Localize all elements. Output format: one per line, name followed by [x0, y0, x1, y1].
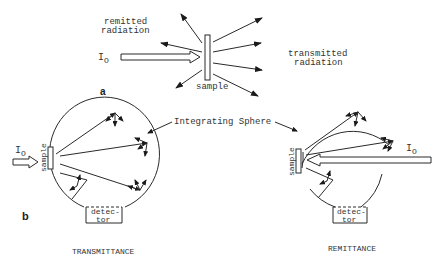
sample-label-left: sample	[39, 143, 48, 172]
integrating-sphere-left	[49, 97, 159, 207]
integrating-sphere-right	[310, 189, 335, 207]
incident-beam-arrow-icon	[121, 51, 200, 63]
scatter-arrow-icon	[106, 113, 115, 121]
detector-label-right-line2: tor	[342, 215, 357, 224]
panel-b-label: b	[22, 210, 29, 222]
sample-label-right: sample	[287, 147, 296, 176]
sample-slab	[205, 35, 210, 80]
scatter-arrow-icon	[115, 113, 123, 121]
sample-label: sample	[196, 82, 228, 92]
transmitted-label-line2: radiation	[294, 58, 343, 68]
integrating-sphere-right	[361, 174, 382, 207]
sample-slab-left	[48, 147, 53, 169]
integrating-sphere-label: Integrating Sphere	[174, 117, 271, 127]
remitted-ray-arrow-icon	[181, 14, 202, 43]
transmitted-ray-arrow-icon	[213, 18, 262, 42]
incident-io-label: IO	[98, 52, 109, 65]
ray-arrow-icon	[56, 113, 115, 154]
scatter-arrow-icon	[320, 181, 327, 184]
transmitted-ray-arrow-icon	[213, 43, 261, 52]
remitted-label-line2: radiation	[101, 26, 150, 36]
scatter-arrow-icon	[145, 143, 147, 156]
ray-line	[318, 180, 333, 198]
scatter-arrow-icon	[346, 112, 358, 116]
panel-a-label: a	[100, 86, 106, 97]
incident-io-label-left: IO	[15, 145, 26, 158]
scatter-arrow-icon	[77, 175, 80, 186]
incident-io-label-right: IO	[406, 143, 417, 156]
transmitted-ray-arrow-icon	[213, 63, 262, 70]
callout-arrow-icon	[275, 122, 297, 131]
diagram-canvas: remitted radiation IO sample transmitted…	[0, 0, 441, 261]
remitted-ray-arrow-icon	[161, 43, 202, 52]
scatter-arrow-icon	[140, 180, 146, 190]
ray-arrow-icon	[60, 143, 147, 156]
transmittance-caption: TRANSMITTANCE	[72, 247, 135, 256]
scatter-arrow-icon	[135, 138, 147, 143]
ray-line	[60, 173, 87, 180]
scatter-arrow-icon	[358, 112, 366, 121]
remittance-caption: REMITTANCE	[328, 244, 376, 253]
panel-a: remitted radiation IO sample transmitted…	[98, 14, 347, 97]
scatter-arrow-icon	[70, 186, 77, 190]
integrating-sphere-right	[302, 152, 303, 168]
scatter-arrow-icon	[327, 171, 330, 181]
detector-label-left-line2: tor	[96, 215, 111, 224]
panel-b-transmittance: detec- tor sample IO TRANSMITTANCE	[13, 97, 160, 256]
sample-slab-right	[296, 149, 301, 173]
integrating-sphere-callout: Integrating Sphere	[148, 117, 297, 133]
panel-b-remittance: detec- tor sample IO REMITTANCE	[287, 112, 431, 253]
ray-line	[72, 180, 87, 199]
callout-arrow-icon	[148, 122, 172, 133]
